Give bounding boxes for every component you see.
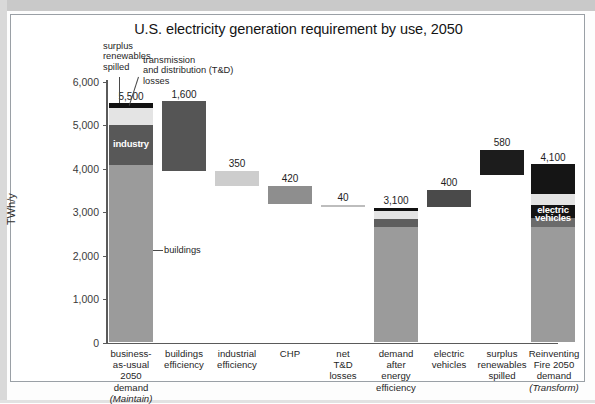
y-tick-1000 — [103, 299, 107, 300]
x-label-line: buildings — [154, 348, 214, 359]
callout-td-line2: and distribution (T&D) — [143, 65, 253, 75]
x-label-line: industrial — [207, 348, 267, 359]
y-tick-2000 — [103, 256, 107, 257]
x-label-business-as-usual: business- as-usual 2050 demand (Maintain… — [101, 348, 161, 404]
y-tick-label-4000: 4,000 — [53, 163, 99, 175]
segment-industry: industry — [109, 125, 153, 165]
segment-industry-label: industry — [109, 139, 153, 149]
value-label-demand-after-energy-efficiency: 3,100 — [374, 195, 418, 206]
segment-other — [109, 108, 153, 125]
segment-transport-cap — [109, 103, 153, 108]
value-label-buildings-efficiency: 1,600 — [162, 89, 206, 100]
value-label-reinventing-fire: 4,100 — [531, 152, 575, 163]
callout-td-line1: transmission — [143, 55, 253, 65]
x-label-chp: CHP — [260, 348, 320, 359]
x-label-line: Reinventing — [523, 348, 585, 359]
segment-industry — [374, 219, 418, 226]
segment-buildings — [531, 227, 575, 343]
value-label-surplus-renewables-spilled: 580 — [480, 137, 524, 148]
segment-surplus-cap — [531, 164, 575, 194]
y-axis-title: TWh/y — [5, 193, 17, 225]
bar-buildings-efficiency[interactable] — [162, 101, 206, 171]
callout-buildings-label: buildings — [164, 245, 224, 255]
y-tick-label-1000: 1,000 — [53, 293, 99, 305]
x-axis-line — [106, 343, 558, 345]
segment-ev-label-line2: vehicles — [531, 213, 575, 223]
bar-net-td-losses[interactable] — [321, 205, 365, 207]
y-tick-label-0: 0 — [53, 337, 99, 349]
y-tick-label-3000: 3,000 — [53, 206, 99, 218]
x-label-line: demand — [523, 370, 585, 381]
x-label-industrial-efficiency: industrial efficiency — [207, 348, 267, 370]
figure-container: U.S. electricity generation requirement … — [10, 14, 585, 382]
callout-buildings: buildings — [164, 245, 224, 255]
x-label-line: energy — [366, 370, 426, 381]
y-tick-label-2000: 2,000 — [53, 250, 99, 262]
y-tick-label-6000: 6,000 — [53, 76, 99, 88]
y-tick-4000 — [103, 169, 107, 170]
segment-buildings — [374, 227, 418, 343]
x-label-line-italic: (Maintain) — [101, 393, 161, 404]
bar-chp[interactable] — [268, 186, 312, 204]
scan-edge-top — [0, 0, 595, 11]
segment-other — [374, 211, 418, 220]
bar-industrial-efficiency[interactable] — [215, 171, 259, 186]
y-tick-6000 — [103, 82, 107, 83]
bar-demand-after-energy-efficiency[interactable] — [374, 208, 418, 343]
x-label-line: as-usual — [101, 359, 161, 370]
callout-surplus-line1: surplus — [103, 41, 165, 51]
segment-other — [531, 194, 575, 204]
x-label-buildings-efficiency: buildings efficiency — [154, 348, 214, 370]
x-label-line: Fire 2050 — [523, 359, 585, 370]
x-label-line: efficiency — [207, 359, 267, 370]
y-tick-5000 — [103, 125, 107, 126]
value-label-electric-vehicles: 400 — [427, 177, 471, 188]
x-label-net-td-losses: net T&D losses — [313, 348, 373, 382]
bar-surplus-renewables-spilled[interactable] — [480, 150, 524, 175]
x-label-line: business- — [101, 348, 161, 359]
y-tick-label-5000: 5,000 — [53, 119, 99, 131]
value-label-net-td-losses: 40 — [321, 192, 365, 203]
value-label-industrial-efficiency: 350 — [215, 158, 259, 169]
x-label-line: demand — [366, 348, 426, 359]
segment-buildings — [109, 165, 153, 343]
x-label-demand-after-energy-efficiency: demand after energy efficiency — [366, 348, 426, 393]
x-label-line: T&D — [313, 359, 373, 370]
plot-area: TWh/y 6,000 5,000 4,000 3,000 2,000 1,00… — [11, 15, 586, 383]
x-label-line: efficiency — [366, 382, 426, 393]
callout-td-line3: losses — [143, 76, 253, 86]
x-label-line: demand — [101, 382, 161, 393]
segment-electric-vehicles: electric vehicles — [531, 205, 575, 219]
y-tick-3000 — [103, 212, 107, 213]
value-label-chp: 420 — [268, 173, 312, 184]
x-label-line: 2050 — [101, 370, 161, 381]
x-label-line: CHP — [260, 348, 320, 359]
x-label-line: net — [313, 348, 373, 359]
bar-reinventing-fire[interactable]: electric vehicles — [531, 164, 575, 342]
bar-business-as-usual[interactable]: industry — [109, 103, 153, 342]
segment-transport-cap — [374, 208, 418, 211]
bar-electric-vehicles[interactable] — [427, 190, 471, 207]
callout-surplus-leader-line — [119, 77, 120, 103]
callout-buildings-leader-line — [153, 250, 163, 251]
x-label-reinventing-fire: Reinventing Fire 2050 demand (Transform) — [523, 348, 585, 393]
x-label-line: efficiency — [154, 359, 214, 370]
x-label-line: after — [366, 359, 426, 370]
scan-edge-bottom — [0, 400, 595, 403]
x-label-line-italic: (Transform) — [523, 382, 585, 393]
callout-transmission-distribution: transmission and distribution (T&D) loss… — [143, 55, 253, 86]
x-label-line: losses — [313, 370, 373, 381]
